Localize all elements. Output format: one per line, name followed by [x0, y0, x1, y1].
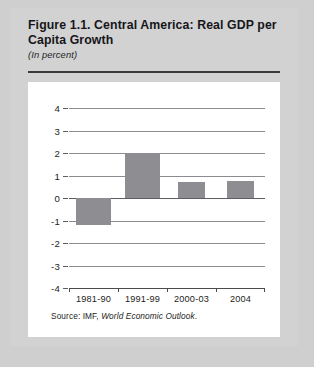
gridline-4	[69, 108, 265, 109]
gridline-2	[69, 153, 265, 154]
x-tick-mark	[167, 288, 168, 292]
x-axis-end-cap-left	[69, 288, 70, 292]
y-tick-mark	[63, 131, 68, 132]
page-title: Figure 1.1. Central America: Real GDP pe…	[28, 18, 280, 47]
x-axis-tick-label: 1981-90	[76, 294, 111, 304]
y-tick-mark	[63, 198, 68, 199]
bar-1991-99	[125, 153, 159, 198]
source-suffix: .	[195, 311, 197, 321]
source-prefix: Source: IMF,	[51, 311, 99, 321]
y-tick-mark	[63, 108, 68, 109]
y-tick-mark	[63, 266, 68, 267]
x-axis-tick-label: 2000-03	[174, 294, 209, 304]
y-tick-mark	[63, 288, 68, 289]
y-axis-tick-label: 2	[54, 148, 60, 159]
x-tick-mark	[118, 288, 119, 292]
x-tick-mark	[216, 288, 217, 292]
figure-subtitle: (In percent)	[28, 49, 280, 60]
y-axis-tick-label: 3	[54, 125, 60, 136]
x-axis-end-cap-right	[264, 288, 265, 292]
bar-1981-90	[76, 198, 110, 225]
x-axis-tick-label: 2004	[230, 294, 251, 304]
y-tick-mark	[63, 243, 68, 244]
figure-card: Figure 1.1. Central America: Real GDP pe…	[10, 8, 298, 346]
gridline-1	[69, 176, 265, 177]
y-axis-tick-label: 1	[54, 170, 60, 181]
source-publication: World Economic Outlook	[101, 311, 195, 321]
y-axis-tick-label: -2	[51, 238, 60, 249]
gridline-neg2	[69, 243, 265, 244]
gridline-3	[69, 131, 265, 132]
y-axis-tick-label: -1	[51, 215, 60, 226]
header-divider	[28, 71, 280, 73]
figure-header: Figure 1.1. Central America: Real GDP pe…	[28, 18, 280, 60]
x-axis-tick-label: 1991-99	[125, 294, 160, 304]
bar-2004	[227, 181, 254, 198]
y-axis-tick-label: -4	[51, 283, 60, 294]
y-axis-tick-label: 0	[54, 193, 60, 204]
y-axis-tick-label: -3	[51, 260, 60, 271]
y-tick-mark	[63, 176, 68, 177]
chart-panel: 43210-1-2-3-41981-901991-992000-032004 S…	[28, 82, 280, 337]
y-tick-mark	[63, 153, 68, 154]
plot-area: 43210-1-2-3-41981-901991-992000-032004	[69, 108, 265, 288]
bar-2000-03	[178, 182, 205, 198]
y-axis-tick-label: 4	[54, 103, 60, 114]
y-tick-mark	[63, 221, 68, 222]
source-note: Source: IMF, World Economic Outlook.	[51, 311, 197, 321]
gridline-neg3	[69, 266, 265, 267]
